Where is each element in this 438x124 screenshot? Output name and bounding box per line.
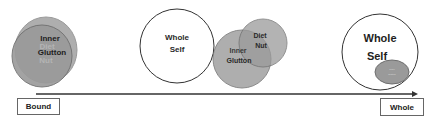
right-ellipse-text-1: inner (389, 68, 395, 71)
middle-glutton-text: Glutton (227, 57, 252, 64)
middle-diet-text: Diet (253, 32, 267, 39)
whole-cluster: Whole Self inner glutton (342, 14, 418, 90)
middle-whole-text: Whole (165, 33, 190, 42)
progress-arrow (36, 91, 418, 97)
whole-label: Whole (390, 103, 414, 112)
arrow-head-icon (412, 91, 418, 97)
right-whole-text: Whole (364, 32, 397, 44)
bound-label: Bound (26, 102, 51, 111)
bound-label-box: Bound (17, 98, 60, 115)
middle-inner-text: Inner (229, 47, 246, 54)
right-ellipse-text-2: glutton (388, 73, 396, 76)
middle-overlap: Inner Glutton Diet Nut (213, 19, 287, 88)
middle-whole-self: Whole Self (140, 9, 214, 83)
diagram-canvas: Inner Diet Glutton Nut Whole Self Inner … (0, 0, 438, 124)
left-text-nut: Nut (39, 56, 53, 65)
middle-nut-text: Nut (255, 42, 267, 49)
right-self-text: Self (367, 50, 388, 62)
middle-self-text: Self (170, 45, 185, 54)
bound-cluster: Inner Diet Glutton Nut (12, 17, 77, 87)
inner-glutton-ellipse-right (375, 60, 409, 84)
whole-label-box: Whole (380, 98, 424, 116)
